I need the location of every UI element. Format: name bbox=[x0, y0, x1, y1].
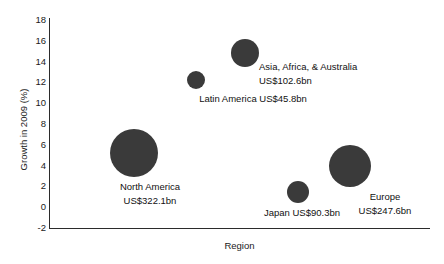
bubble-annotation: North AmericaUS$322.1bn bbox=[120, 180, 180, 207]
bubble-chart-figure: 181614121086420-2 Growth in 2009 (%) Nor… bbox=[0, 0, 444, 264]
y-tick-label: 16 bbox=[2, 36, 46, 46]
bubble-annotation-line: North America bbox=[120, 180, 180, 194]
bubble-marker[interactable] bbox=[231, 39, 259, 67]
bubble-annotation-line: Japan US$90.3bn bbox=[264, 206, 340, 220]
x-axis-title: Region bbox=[49, 240, 430, 251]
bubble-annotation-line: Europe bbox=[359, 190, 412, 204]
bubble-annotation-line: Asia, Africa, & Australia bbox=[259, 60, 357, 74]
bubble-annotation-line: Latin America US$45.8bn bbox=[199, 92, 307, 106]
y-tick-label: 0 bbox=[2, 202, 46, 212]
bubble-annotation: EuropeUS$247.6bn bbox=[359, 190, 412, 217]
y-tick-label: -2 bbox=[2, 223, 46, 233]
bubble-annotation: Latin America US$45.8bn bbox=[199, 92, 307, 106]
bubble-marker[interactable] bbox=[287, 181, 309, 203]
bubble-annotation: Asia, Africa, & AustraliaUS$102.6bn bbox=[259, 60, 357, 87]
bubble-annotation-line: US$322.1bn bbox=[120, 194, 180, 208]
y-axis-title: Growth in 2009 (%) bbox=[18, 60, 29, 200]
x-axis-line bbox=[49, 228, 430, 229]
bubble-marker[interactable] bbox=[329, 145, 371, 187]
bubble-annotation-line: US$247.6bn bbox=[359, 204, 412, 218]
y-axis-line bbox=[49, 18, 50, 229]
bubble-marker[interactable] bbox=[187, 71, 205, 89]
bubble-annotation: Japan US$90.3bn bbox=[264, 206, 340, 220]
y-tick-label: 18 bbox=[2, 15, 46, 25]
bubble-annotation-line: US$102.6bn bbox=[259, 74, 357, 88]
bubble-marker[interactable] bbox=[110, 129, 158, 177]
